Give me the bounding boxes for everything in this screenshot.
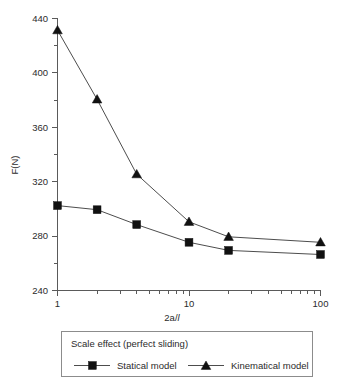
y-ticklabel-280: 280 (32, 230, 48, 241)
square-marker (317, 251, 325, 259)
x-ticklabel-100: 100 (313, 298, 329, 309)
square-marker (54, 202, 62, 210)
triangle-marker (224, 232, 234, 240)
x-ticklabel-10: 10 (184, 298, 195, 309)
x-axis-ticks: 1 10 100 (55, 291, 329, 310)
triangle-marker (53, 25, 63, 33)
square-marker (225, 247, 233, 255)
square-marker (89, 362, 97, 370)
y-axis-minor-ticks (54, 46, 58, 264)
legend-title: Scale effect (perfect sliding) (71, 338, 188, 349)
statical-model-markers (54, 202, 325, 259)
x-axis-minor-ticks (97, 291, 315, 295)
y-ticklabel-400: 400 (32, 67, 48, 78)
legend-entry-kinematical-model[interactable]: Kinematical model (188, 360, 309, 371)
legend: Scale effect (perfect sliding) Statical … (62, 332, 313, 377)
chart-figure: 440 400 360 320 280 240 1 10 (0, 0, 345, 381)
x-axis-title-prefix: 2a/ (164, 312, 178, 323)
y-ticklabel-360: 360 (32, 122, 48, 133)
triangle-marker (92, 95, 102, 103)
square-marker (185, 238, 193, 246)
x-axis-title-italic: l (178, 312, 181, 323)
x-ticklabel-1: 1 (55, 298, 60, 309)
y-ticklabel-440: 440 (32, 13, 48, 24)
chart-svg: 440 400 360 320 280 240 1 10 (0, 0, 345, 381)
y-ticklabel-240: 240 (32, 285, 48, 296)
square-marker (93, 206, 101, 214)
triangle-marker (132, 169, 142, 177)
y-ticklabel-320: 320 (32, 176, 48, 187)
legend-label-statical-model: Statical model (117, 360, 177, 371)
legend-label-kinematical-model: Kinematical model (231, 360, 309, 371)
square-marker (133, 221, 141, 229)
y-axis-ticks: 440 400 360 320 280 240 (32, 13, 57, 296)
x-axis-title: 2a/l (164, 312, 180, 323)
y-axis-title: F(N) (9, 156, 20, 175)
legend-entry-statical-model[interactable]: Statical model (74, 360, 177, 371)
